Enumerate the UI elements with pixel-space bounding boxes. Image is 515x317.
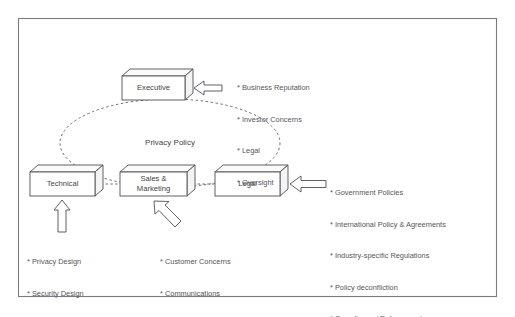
list-item: * Communications <box>160 289 231 300</box>
list-item: * Oversight <box>237 178 310 189</box>
box-technical-top <box>30 165 103 172</box>
list-item: * Investor Concerns <box>237 115 310 126</box>
legal-drivers-list: * Government Policies * International Po… <box>330 167 446 317</box>
list-item: * Industry-specific Regulations <box>330 251 446 262</box>
executive-drivers-list: * Business Reputation * Investor Concern… <box>237 62 310 209</box>
privacy-policy-label: Privacy Policy <box>120 138 220 148</box>
box-technical-label: Technical <box>30 179 95 189</box>
list-item: * Security Design <box>27 289 140 300</box>
technical-drivers-list: * Privacy Design * Security Design * Ope… <box>27 236 140 317</box>
list-item: * Customer Concerns <box>160 257 231 268</box>
box-executive-top <box>122 69 193 76</box>
sales-marketing-drivers-list: * Customer Concerns * Communications <box>160 236 231 317</box>
box-sales-marketing-label: Sales & Marketing <box>120 174 187 193</box>
list-item: * Privacy Design <box>27 257 140 268</box>
list-item: * International Policy & Agreements <box>330 220 446 231</box>
box-executive-label: Executive <box>122 83 185 93</box>
box-sales-marketing-top <box>120 165 195 172</box>
list-item: * Policy deconfliction <box>330 283 446 294</box>
diagram-canvas: ·· ···· ·· <box>0 0 515 317</box>
list-item: * Business Reputation <box>237 83 310 94</box>
list-item: * Legal <box>237 146 310 157</box>
list-item: * Government Policies <box>330 188 446 199</box>
